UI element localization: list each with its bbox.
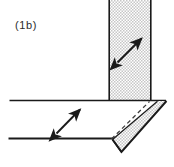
plate-edge-face-group [113, 101, 167, 152]
plate-edge-face-fill [113, 101, 167, 152]
figure-container: (1b) [0, 0, 174, 167]
double-headed-arrow-flange [57, 110, 81, 134]
figure-label: (1b) [15, 19, 37, 31]
